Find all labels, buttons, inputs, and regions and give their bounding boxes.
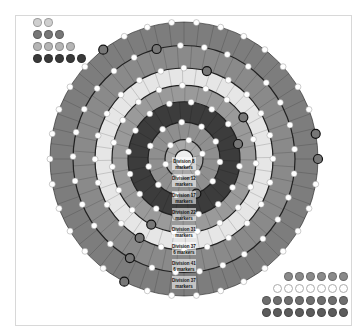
board-node[interactable] <box>169 292 175 298</box>
board-marker[interactable] <box>125 254 134 263</box>
board-node[interactable] <box>82 64 88 70</box>
board-node[interactable] <box>220 262 226 268</box>
board-node[interactable] <box>169 20 175 26</box>
board-node[interactable] <box>295 228 301 234</box>
token[interactable] <box>306 284 315 293</box>
board-node[interactable] <box>204 244 210 250</box>
board-marker[interactable] <box>120 277 129 286</box>
token[interactable] <box>306 308 315 317</box>
token[interactable] <box>295 296 304 305</box>
board-marker[interactable] <box>311 129 320 138</box>
board-node[interactable] <box>91 223 97 229</box>
board-node[interactable] <box>270 156 276 162</box>
board-node[interactable] <box>127 171 133 177</box>
board-node[interactable] <box>160 126 166 132</box>
token[interactable] <box>339 284 348 293</box>
board-node[interactable] <box>193 20 199 26</box>
board-node[interactable] <box>56 107 62 113</box>
board-node[interactable] <box>149 265 155 271</box>
board-node[interactable] <box>210 178 216 184</box>
board-node[interactable] <box>248 184 254 190</box>
board-node[interactable] <box>120 117 126 123</box>
token[interactable] <box>295 308 304 317</box>
board-node[interactable] <box>179 82 185 88</box>
token[interactable] <box>55 54 64 63</box>
token[interactable] <box>317 284 326 293</box>
board-marker[interactable] <box>202 67 211 76</box>
board-node[interactable] <box>280 64 286 70</box>
board-node[interactable] <box>116 187 122 193</box>
board-marker[interactable] <box>135 233 144 242</box>
board-marker[interactable] <box>152 45 161 54</box>
board-node[interactable] <box>104 202 110 208</box>
board-marker[interactable] <box>239 113 248 122</box>
board-node[interactable] <box>199 151 205 157</box>
board-node[interactable] <box>118 220 124 226</box>
board-node[interactable] <box>280 248 286 254</box>
board-node[interactable] <box>215 201 221 207</box>
board-node[interactable] <box>118 92 124 98</box>
board-node[interactable] <box>275 217 281 223</box>
board-node[interactable] <box>277 100 283 106</box>
token[interactable] <box>66 42 75 51</box>
board-node[interactable] <box>107 241 113 247</box>
token[interactable] <box>339 272 348 281</box>
token[interactable] <box>328 284 337 293</box>
board-marker[interactable] <box>99 45 108 54</box>
token[interactable] <box>44 42 53 51</box>
token[interactable] <box>273 308 282 317</box>
board-node[interactable] <box>203 86 209 92</box>
board-node[interactable] <box>49 131 55 137</box>
board-marker[interactable] <box>234 139 243 148</box>
board-node[interactable] <box>262 47 268 53</box>
token-pool-top-left[interactable] <box>33 18 86 63</box>
board-node[interactable] <box>218 288 224 294</box>
board-node[interactable] <box>198 124 204 130</box>
board-marker[interactable] <box>314 155 323 164</box>
board-node[interactable] <box>218 24 224 30</box>
board-node[interactable] <box>258 110 264 116</box>
board-node[interactable] <box>225 77 231 83</box>
board-node[interactable] <box>177 43 183 49</box>
token[interactable] <box>44 18 53 27</box>
board-node[interactable] <box>258 201 264 207</box>
board-node[interactable] <box>292 146 298 152</box>
board-node[interactable] <box>67 228 73 234</box>
token[interactable] <box>306 296 315 305</box>
board-node[interactable] <box>241 251 247 257</box>
board-node[interactable] <box>56 205 62 211</box>
token[interactable] <box>284 284 293 293</box>
board-node[interactable] <box>181 65 187 71</box>
board-node[interactable] <box>94 85 100 91</box>
token[interactable] <box>44 54 53 63</box>
board-node[interactable] <box>135 99 141 105</box>
board-node[interactable] <box>67 84 73 90</box>
token[interactable] <box>33 18 42 27</box>
board-node[interactable] <box>95 180 101 186</box>
token[interactable] <box>262 296 271 305</box>
token[interactable] <box>295 284 304 293</box>
token[interactable] <box>284 272 293 281</box>
board-node[interactable] <box>155 182 161 188</box>
board-node[interactable] <box>209 106 215 112</box>
token[interactable] <box>273 284 282 293</box>
board-node[interactable] <box>137 191 143 197</box>
board-node[interactable] <box>193 292 199 298</box>
token[interactable] <box>317 272 326 281</box>
board-marker[interactable] <box>147 220 156 229</box>
board-node[interactable] <box>49 181 55 187</box>
board-node[interactable] <box>132 128 138 134</box>
token[interactable] <box>55 42 64 51</box>
board-node[interactable] <box>213 139 219 145</box>
board-node[interactable] <box>111 140 117 146</box>
board-node[interactable] <box>146 164 152 170</box>
board-node[interactable] <box>167 142 173 148</box>
board-node[interactable] <box>245 63 251 69</box>
token[interactable] <box>339 296 348 305</box>
token[interactable] <box>295 272 304 281</box>
token[interactable] <box>306 272 315 281</box>
board-node[interactable] <box>244 92 250 98</box>
board-node[interactable] <box>82 248 88 254</box>
board-node[interactable] <box>230 184 236 190</box>
board-node[interactable] <box>111 68 117 74</box>
